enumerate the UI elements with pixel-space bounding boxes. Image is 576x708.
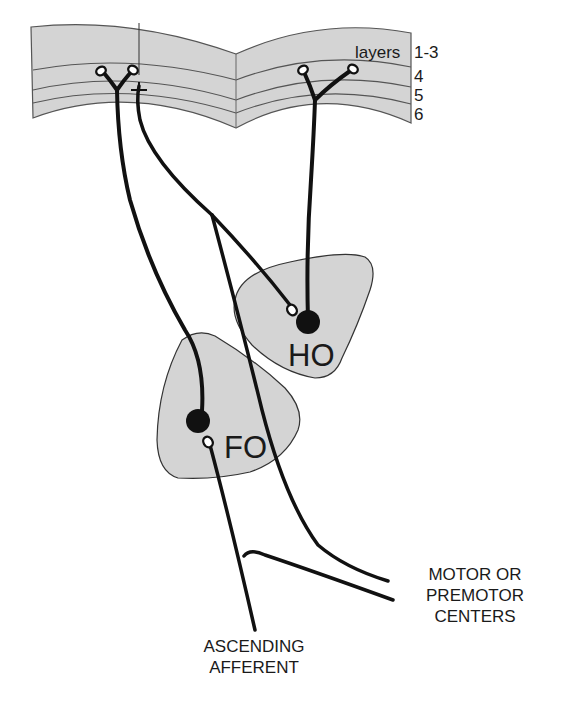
ho-label: HO — [288, 340, 335, 371]
layer-4-label: 4 — [414, 68, 423, 85]
motor-line-3: CENTERS — [412, 606, 538, 627]
layer-5-label: 5 — [414, 87, 423, 104]
cortex-strip — [31, 23, 411, 128]
fo-label: FO — [224, 432, 267, 463]
motor-line-2: PREMOTOR — [412, 585, 538, 606]
layers-label: layers — [355, 44, 400, 61]
motor-line-1: MOTOR OR — [412, 564, 538, 585]
afferent-line-1: ASCENDING — [184, 636, 324, 657]
motor-centers-label: MOTOR OR PREMOTOR CENTERS — [412, 564, 538, 627]
afferent-line-2: AFFERENT — [184, 657, 324, 678]
layer-1-3-label: 1-3 — [414, 44, 439, 61]
ho-cell-body — [296, 310, 320, 334]
fo-cell-body — [186, 409, 210, 433]
layer-6-label: 6 — [414, 106, 423, 123]
ascending-afferent-label: ASCENDING AFFERENT — [184, 636, 324, 678]
